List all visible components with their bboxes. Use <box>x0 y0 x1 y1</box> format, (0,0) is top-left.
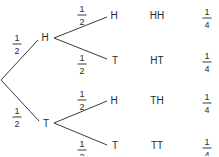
numerator: 1 <box>77 4 86 14</box>
numerator: 1 <box>202 51 211 61</box>
denominator: 4 <box>202 150 211 157</box>
numerator: 1 <box>202 7 211 17</box>
leaf-HH-node: H <box>110 11 117 21</box>
fraction-bar <box>77 15 86 16</box>
leaf-TH-node: H <box>110 96 117 106</box>
prob-H-H: 1 2 <box>77 4 86 27</box>
prob-H-T: 1 2 <box>77 53 86 76</box>
fraction-bar <box>202 103 211 104</box>
fraction-bar <box>12 117 21 118</box>
denominator: 2 <box>12 119 21 129</box>
fraction-bar <box>77 64 86 65</box>
denominator: 2 <box>77 152 86 157</box>
denominator: 2 <box>77 66 86 76</box>
prob-root-T: 1 2 <box>12 106 21 129</box>
denominator: 2 <box>77 17 86 27</box>
prob-T-T: 1 2 <box>77 139 86 157</box>
numerator: 1 <box>202 137 211 147</box>
numerator: 1 <box>77 53 86 63</box>
denominator: 4 <box>202 20 211 30</box>
outcome-prob-HT: 1 4 <box>202 51 211 74</box>
outcome-TT: TT <box>151 141 163 151</box>
fraction-bar <box>77 150 86 151</box>
outcome-prob-TT: 1 4 <box>202 137 211 157</box>
fraction-bar <box>202 62 211 63</box>
numerator: 1 <box>12 33 21 43</box>
numerator: 1 <box>77 139 86 149</box>
fraction-bar <box>202 18 211 19</box>
outcome-prob-HH: 1 4 <box>202 7 211 30</box>
leaf-HT-node: T <box>112 56 118 66</box>
denominator: 4 <box>202 64 211 74</box>
prob-root-H: 1 2 <box>12 33 21 56</box>
fraction-bar <box>202 148 211 149</box>
prob-T-H: 1 2 <box>77 89 86 112</box>
fraction-bar <box>12 44 21 45</box>
tree-branches <box>0 0 219 156</box>
leaf-TT-node: T <box>112 141 118 151</box>
node-H: H <box>41 33 48 43</box>
numerator: 1 <box>12 106 21 116</box>
node-T: T <box>43 119 49 129</box>
denominator: 2 <box>77 102 86 112</box>
outcome-HT: HT <box>150 56 163 66</box>
outcome-HH: HH <box>150 11 164 21</box>
fraction-bar <box>77 100 86 101</box>
numerator: 1 <box>77 89 86 99</box>
numerator: 1 <box>202 92 211 102</box>
outcome-prob-TH: 1 4 <box>202 92 211 115</box>
denominator: 2 <box>12 46 21 56</box>
outcome-TH: TH <box>150 96 163 106</box>
denominator: 4 <box>202 105 211 115</box>
